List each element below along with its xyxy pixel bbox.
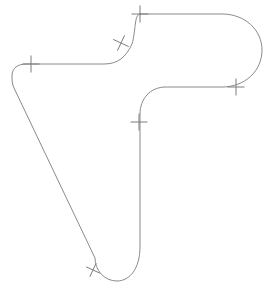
shape-svg bbox=[0, 0, 268, 287]
drawing-canvas bbox=[0, 0, 268, 287]
tick-marks-group bbox=[23, 6, 245, 277]
tick-upper-s-curve-cross bbox=[117, 35, 124, 50]
shape-outline-path bbox=[12, 14, 262, 281]
outline-group bbox=[12, 14, 262, 281]
